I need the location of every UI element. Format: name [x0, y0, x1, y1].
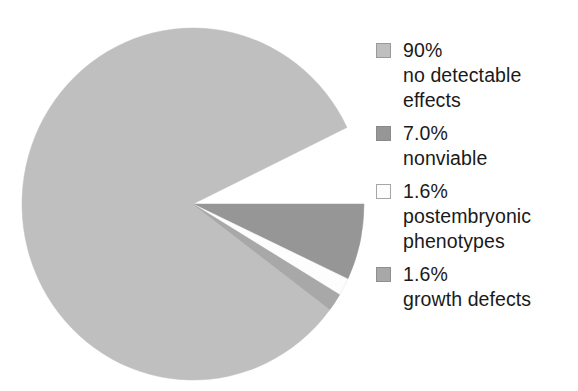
legend-swatch-icon [376, 267, 391, 282]
legend-label: 1.6%postembryonicphenotypes [403, 179, 531, 254]
pie-slice-group [22, 28, 364, 380]
legend-category-label: phenotypes [403, 229, 531, 254]
legend-category-label: no detectable [403, 63, 521, 88]
legend-item: 90%no detectableeffects [376, 38, 576, 113]
pie-chart-graphic [20, 26, 366, 382]
legend-swatch-icon [376, 43, 391, 58]
legend-swatch-icon [376, 126, 391, 141]
legend-item-row: 1.6%growth defects [376, 262, 576, 312]
legend-item: 1.6%growth defects [376, 262, 576, 312]
legend-item: 7.0%nonviable [376, 121, 576, 171]
legend-value-label: 7.0% [403, 121, 487, 146]
pie-svg [20, 26, 366, 382]
legend-item-row: 7.0%nonviable [376, 121, 576, 171]
legend-label: 1.6%growth defects [403, 262, 531, 312]
legend-item-row: 1.6%postembryonicphenotypes [376, 179, 576, 254]
legend-item: 1.6%postembryonicphenotypes [376, 179, 576, 254]
legend-value-label: 1.6% [403, 262, 531, 287]
legend-category-label: postembryonic [403, 204, 531, 229]
legend-label: 7.0%nonviable [403, 121, 487, 171]
legend-category-label: nonviable [403, 146, 487, 171]
pie-chart-figure: 90%no detectableeffects7.0%nonviable1.6%… [0, 0, 578, 391]
legend-swatch-icon [376, 184, 391, 199]
chart-legend: 90%no detectableeffects7.0%nonviable1.6%… [376, 38, 576, 320]
legend-value-label: 1.6% [403, 179, 531, 204]
legend-label: 90%no detectableeffects [403, 38, 521, 113]
legend-category-label: effects [403, 88, 521, 113]
legend-value-label: 90% [403, 38, 521, 63]
legend-item-row: 90%no detectableeffects [376, 38, 576, 113]
legend-category-label: growth defects [403, 287, 531, 312]
